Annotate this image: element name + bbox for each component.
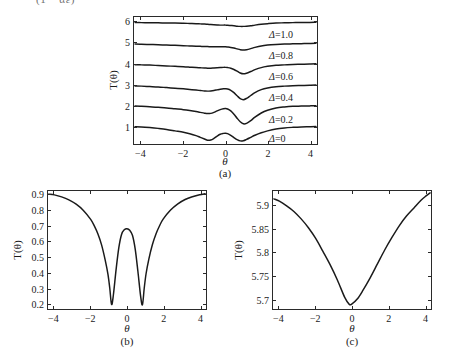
y-tick-mark xyxy=(47,241,51,242)
y-tick-mark xyxy=(47,257,51,258)
x-tick-mark xyxy=(352,190,353,194)
y-tick-mark xyxy=(428,205,432,206)
y-tick-mark xyxy=(428,252,432,253)
y-tick-mark xyxy=(314,106,318,107)
y-tick-label: 5.85 xyxy=(250,223,269,234)
y-tick-label: 0.7 xyxy=(25,220,44,231)
x-tick-mark xyxy=(53,190,54,194)
x-tick-mark xyxy=(226,141,227,145)
x-tick-label: −4 xyxy=(273,313,284,324)
y-tick-mark xyxy=(203,210,207,211)
panel-a-caption: (a) xyxy=(219,167,231,179)
y-tick-mark xyxy=(314,64,318,65)
x-tick-mark xyxy=(278,306,279,310)
y-tick-mark xyxy=(203,226,207,227)
panel-b-plot-area xyxy=(47,190,207,310)
panel-c-y-axis-title: T(θ) xyxy=(232,240,244,259)
x-tick-mark xyxy=(140,141,141,145)
y-tick-mark xyxy=(314,85,318,86)
y-tick-label: 5 xyxy=(111,37,130,48)
curve-annotation-3: Δ=0.4 xyxy=(269,92,293,103)
panel-c-caption: (c) xyxy=(346,335,358,347)
y-tick-mark xyxy=(203,241,207,242)
y-tick-mark xyxy=(47,289,51,290)
x-tick-label: −2 xyxy=(178,148,189,159)
panel-c-curve xyxy=(273,191,431,309)
y-tick-label: 5.9 xyxy=(250,200,269,211)
x-tick-label: 4 xyxy=(423,313,428,324)
x-tick-mark xyxy=(183,16,184,20)
x-tick-label: −4 xyxy=(48,313,59,324)
x-tick-mark xyxy=(183,141,184,145)
y-tick-mark xyxy=(133,106,137,107)
y-tick-label: 0.3 xyxy=(25,283,44,294)
y-tick-label: 6 xyxy=(111,16,130,27)
x-tick-label: −2 xyxy=(85,313,96,324)
x-tick-mark xyxy=(226,16,227,20)
curve-annotation-4: Δ=0.2 xyxy=(269,114,293,125)
panel-b-curve xyxy=(48,191,206,309)
x-tick-mark xyxy=(201,306,202,310)
y-tick-mark xyxy=(203,273,207,274)
y-tick-mark xyxy=(272,276,276,277)
panel-c-plot-area xyxy=(272,190,432,310)
y-tick-label: 5.8 xyxy=(250,247,269,258)
y-tick-mark xyxy=(133,21,137,22)
y-tick-mark xyxy=(428,276,432,277)
x-tick-mark xyxy=(90,190,91,194)
x-tick-mark xyxy=(278,190,279,194)
x-tick-label: 4 xyxy=(308,148,313,159)
y-tick-label: 5.7 xyxy=(250,294,269,305)
y-tick-mark xyxy=(203,257,207,258)
y-tick-mark xyxy=(133,85,137,86)
y-tick-mark xyxy=(314,42,318,43)
x-tick-mark xyxy=(352,306,353,310)
x-tick-mark xyxy=(164,190,165,194)
y-tick-label: 1 xyxy=(111,122,130,133)
x-tick-mark xyxy=(268,16,269,20)
y-tick-label: 0.2 xyxy=(25,299,44,310)
y-tick-label: 2 xyxy=(111,100,130,111)
x-tick-mark xyxy=(127,306,128,310)
x-tick-label: 2 xyxy=(161,313,166,324)
panel-c: T(θ) θ (c) −4−20245.75.755.85.855.9 xyxy=(228,180,451,355)
y-tick-mark xyxy=(272,252,276,253)
x-tick-label: 2 xyxy=(266,148,271,159)
y-tick-label: 0.4 xyxy=(25,267,44,278)
x-tick-mark xyxy=(127,190,128,194)
curve-annotation-2: Δ=0.6 xyxy=(269,71,293,82)
y-tick-mark xyxy=(47,304,51,305)
x-tick-label: 0 xyxy=(125,313,130,324)
x-tick-mark xyxy=(426,190,427,194)
x-tick-mark xyxy=(201,190,202,194)
curve-annotation-0: Δ=1.0 xyxy=(269,29,293,40)
y-tick-mark xyxy=(272,205,276,206)
x-tick-label: −2 xyxy=(310,313,321,324)
x-tick-mark xyxy=(315,306,316,310)
panel-b-caption: (b) xyxy=(121,335,134,347)
x-tick-mark xyxy=(311,141,312,145)
y-tick-mark xyxy=(203,194,207,195)
y-tick-label: 4 xyxy=(111,58,130,69)
y-tick-mark xyxy=(133,127,137,128)
x-tick-mark xyxy=(164,306,165,310)
curve-annotation-1: Δ=0.8 xyxy=(269,50,293,61)
y-tick-mark xyxy=(428,229,432,230)
x-tick-mark xyxy=(389,190,390,194)
x-tick-label: −4 xyxy=(135,148,146,159)
x-tick-label: 4 xyxy=(198,313,203,324)
y-tick-mark xyxy=(314,127,318,128)
figure-root: (1 − αε) T(θ) θ (a) −4−2024123456Δ=1.0Δ=… xyxy=(0,0,451,355)
panel-b-y-axis-title: T(θ) xyxy=(11,240,23,259)
y-tick-mark xyxy=(272,229,276,230)
y-tick-mark xyxy=(47,273,51,274)
y-tick-label: 0.9 xyxy=(25,188,44,199)
y-tick-mark xyxy=(133,64,137,65)
x-tick-label: 2 xyxy=(386,313,391,324)
y-tick-mark xyxy=(47,226,51,227)
y-tick-label: 3 xyxy=(111,79,130,90)
y-tick-mark xyxy=(133,42,137,43)
y-tick-mark xyxy=(47,194,51,195)
y-tick-mark xyxy=(314,21,318,22)
x-tick-mark xyxy=(311,16,312,20)
